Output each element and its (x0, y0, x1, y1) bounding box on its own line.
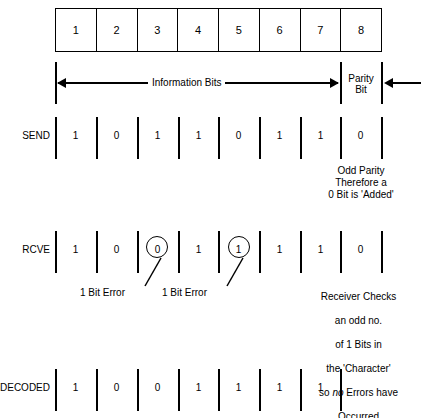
send-tick (381, 117, 383, 159)
information-bits-label: Information Bits (148, 77, 225, 88)
bit-position-cell: 3 (138, 9, 179, 51)
send-row-label: SEND (0, 130, 50, 141)
rcve-bit: 0 (340, 244, 381, 255)
send-bit: 1 (137, 130, 178, 141)
rcve-note-line2: an odd no. (335, 315, 382, 326)
parity-pointer-arrowhead (384, 78, 393, 88)
decoded-bit: 0 (137, 382, 178, 393)
error-label-1: 1 Bit Error (80, 287, 125, 299)
rcve-bit: 1 (300, 244, 341, 255)
bit-position-cell: 8 (341, 9, 381, 51)
send-bit: 0 (218, 130, 259, 141)
bit-position-label: 6 (277, 24, 283, 36)
information-bits-arrowhead-right (330, 78, 339, 88)
decoded-row-label: DECODED (0, 382, 50, 393)
parity-pointer-line (393, 82, 421, 84)
rcve-note-line1: Receiver Checks (321, 291, 397, 302)
decoded-bit: 1 (178, 382, 219, 393)
bit-position-label: 3 (154, 24, 160, 36)
bit-position-table: 1 2 3 4 5 6 7 8 (55, 8, 382, 52)
decoded-bit: 1 (55, 382, 96, 393)
send-bit: 0 (340, 130, 381, 141)
send-row: SEND 1 0 1 1 0 1 1 0 (0, 117, 421, 159)
bit-position-label: 1 (73, 24, 79, 36)
rcve-bit: 1 (259, 244, 300, 255)
send-parity-note: Odd Parity Therefore a 0 Bit is 'Added' (301, 165, 421, 201)
rcve-bit: 0 (96, 244, 137, 255)
send-bit: 1 (300, 130, 341, 141)
bit-position-label: 4 (195, 24, 201, 36)
decoded-bit: 1 (300, 382, 341, 393)
decoded-bit: 1 (218, 382, 259, 393)
rcve-row-label: RCVE (0, 244, 50, 255)
bit-position-label: 7 (317, 24, 323, 36)
parity-bit-label-line2: Bit (355, 84, 367, 95)
bit-position-cell: 4 (178, 9, 219, 51)
rcve-note-line3: of 1 Bits in (335, 339, 382, 350)
bit-position-cell: 1 (56, 9, 97, 51)
bit-position-cell: 2 (97, 9, 138, 51)
parity-bit-diagram: 1 2 3 4 5 6 7 8 Information Bits Parity … (0, 0, 421, 418)
bit-position-cell: 7 (301, 9, 342, 51)
rcve-row: RCVE 1 0 0 1 1 1 1 0 (0, 231, 421, 273)
rcve-note-line6: Occurred (338, 411, 379, 418)
span-boundary-parity (340, 62, 342, 104)
information-bits-arrowhead-left (57, 78, 66, 88)
decoded-bit: 1 (259, 382, 300, 393)
send-bit: 1 (55, 130, 96, 141)
bit-position-cell: 5 (219, 9, 260, 51)
rcve-tick (381, 231, 383, 273)
decoded-bit: 0 (96, 382, 137, 393)
field-span-row: Information Bits Parity Bit (0, 62, 421, 106)
parity-bit-label: Parity Bit (344, 73, 378, 95)
span-boundary-right (381, 62, 383, 104)
rcve-bit: 1 (178, 244, 219, 255)
decoded-row: DECODED 1 0 0 1 1 1 1 (0, 369, 421, 411)
error-leader-line-2 (217, 258, 277, 298)
error-label-2: 1 Bit Error (162, 287, 207, 299)
rcve-bit-error: 0 (137, 244, 178, 255)
bit-position-label: 8 (358, 24, 364, 36)
send-bit: 1 (259, 130, 300, 141)
bit-position-cell: 6 (260, 9, 301, 51)
parity-bit-label-line1: Parity (348, 73, 374, 84)
bit-position-label: 5 (236, 24, 242, 36)
rcve-bit-error: 1 (218, 244, 259, 255)
rcve-bit: 1 (55, 244, 96, 255)
send-bit: 0 (96, 130, 137, 141)
bit-position-label: 2 (114, 24, 120, 36)
send-bit: 1 (178, 130, 219, 141)
